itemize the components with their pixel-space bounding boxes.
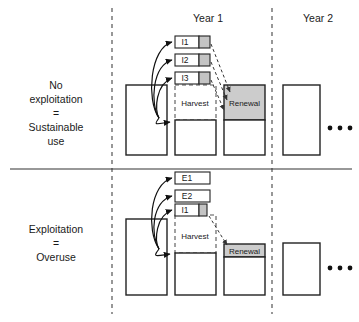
stock-bar-initial-overuse bbox=[126, 219, 167, 295]
renewal-label-overuse: Renewal bbox=[229, 247, 260, 256]
row-sustainable-label-line-1: No bbox=[49, 79, 63, 91]
investment-box-i1: I1 bbox=[175, 36, 210, 48]
expenditure-box-label: E1 bbox=[182, 173, 193, 183]
year-2-heading: Year 2 bbox=[303, 12, 333, 24]
stock-bar-after-harvest-overuse bbox=[175, 253, 216, 295]
stock-bar-year2-overuse bbox=[283, 243, 320, 295]
renewal-label-sustainable: Renewal bbox=[229, 99, 260, 108]
investment-return-segment bbox=[199, 204, 207, 216]
row-sustainable: No exploitation = Sustainable use Harves… bbox=[29, 36, 353, 155]
harvest-label-overuse: Harvest bbox=[181, 232, 209, 241]
row-overuse-label-line-2: = bbox=[53, 237, 59, 249]
stock-bar-after-harvest-sustainable bbox=[175, 120, 216, 155]
return-arrow-i2-to-renewal bbox=[211, 62, 227, 100]
harvest-label-sustainable: Harvest bbox=[181, 99, 209, 108]
expenditure-box-e1: E1 bbox=[175, 172, 210, 184]
continuation-dot bbox=[328, 266, 333, 271]
continuation-dot bbox=[338, 126, 343, 131]
stock-bar-initial-sustainable bbox=[126, 85, 167, 155]
year-1-heading: Year 1 bbox=[193, 12, 223, 24]
diagram-canvas: Year 1 Year 2 No exploitation = Sustaina… bbox=[0, 0, 359, 322]
row-overuse-label-line-3: Overuse bbox=[36, 251, 76, 263]
investment-box-label: I3 bbox=[181, 73, 188, 83]
continuation-dot bbox=[328, 126, 333, 131]
row-sustainable-label-line-2: exploitation bbox=[29, 93, 82, 105]
continuation-dot bbox=[338, 266, 343, 271]
continuation-dot bbox=[348, 126, 353, 131]
investment-box-label: I2 bbox=[181, 55, 188, 65]
return-arrow-i1-to-renewal-overuse bbox=[209, 216, 227, 245]
investment-box-i2: I2 bbox=[175, 54, 210, 66]
continuation-dot bbox=[348, 266, 353, 271]
stock-bar-base-overuse bbox=[224, 257, 265, 295]
investment-return-segment bbox=[199, 54, 210, 66]
stock-bar-base-sustainable bbox=[224, 120, 265, 155]
row-sustainable-label-line-5: use bbox=[48, 135, 65, 147]
investment-box-label: I1 bbox=[181, 205, 188, 215]
investment-box-i1-overuse: I1 bbox=[175, 204, 207, 216]
expenditure-box-label: E2 bbox=[182, 191, 193, 201]
row-sustainable-label-line-3: = bbox=[53, 107, 59, 119]
stock-bar-year2-sustainable bbox=[283, 85, 320, 155]
investment-return-segment bbox=[199, 72, 210, 84]
expenditure-box-e2: E2 bbox=[175, 190, 210, 202]
row-sustainable-label-line-4: Sustainable bbox=[29, 121, 84, 133]
investment-box-i3: I3 bbox=[175, 72, 210, 84]
investment-box-label: I1 bbox=[181, 37, 188, 47]
row-overuse-label-line-1: Exploitation bbox=[29, 223, 83, 235]
row-overuse: Exploitation = Overuse Harvest Renewal bbox=[29, 172, 353, 295]
investment-return-segment bbox=[199, 36, 210, 48]
